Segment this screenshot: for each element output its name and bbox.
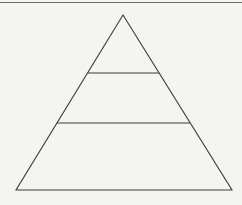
- pyramid-tier-middle: [57, 73, 190, 123]
- pyramid-diagram: [0, 0, 242, 205]
- pyramid-tier-bottom: [16, 123, 232, 190]
- pyramid-tier-top: [88, 15, 159, 73]
